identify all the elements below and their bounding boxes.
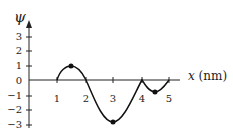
x-tick-label: 1 (54, 93, 60, 104)
data-point (69, 64, 74, 69)
x-axis-label: x (nm) (188, 69, 227, 83)
y-tick-label: 1 (16, 60, 22, 71)
data-point (111, 120, 116, 125)
data-point (153, 90, 158, 95)
x-tick-label: 2 (83, 93, 89, 104)
y-tick-label: 2 (16, 45, 22, 56)
y-axis-arrow-icon (26, 20, 32, 28)
y-axis-label: ψ (14, 8, 26, 26)
x-tick-label: 5 (166, 93, 172, 104)
y-tick-label: −2 (7, 104, 22, 115)
y-tick-label: 0 (16, 75, 22, 86)
wavefunction-plot: 3 2 1 0 −1 −2 −3 1 2 3 4 5 ψ x (nm) (0, 0, 233, 138)
y-tick-label: −3 (7, 119, 22, 130)
y-tick-label: 3 (16, 31, 22, 42)
y-tick-label: −1 (7, 90, 22, 101)
x-tick-label: 3 (110, 93, 116, 104)
x-tick-label: 4 (139, 93, 145, 104)
